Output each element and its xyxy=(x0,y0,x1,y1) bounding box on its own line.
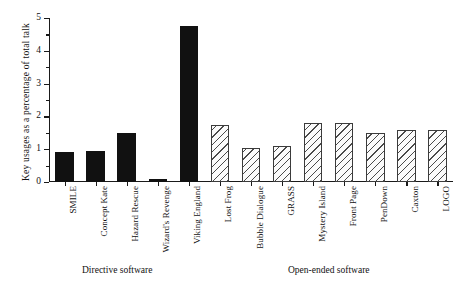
y-tick-major xyxy=(44,182,49,183)
y-tick-label: 3 xyxy=(36,79,41,89)
group-label-directive: Directive software xyxy=(82,265,152,275)
bar-chart: Key usages as a percentage of total talk… xyxy=(0,0,464,298)
x-axis-label: Wizard's Revenge xyxy=(161,186,171,253)
bar xyxy=(304,123,323,182)
bar xyxy=(180,26,199,182)
bar xyxy=(397,130,416,182)
x-axis-label: Viking England xyxy=(192,186,202,244)
bar xyxy=(117,133,136,182)
bar xyxy=(211,125,230,182)
y-tick-label: 1 xyxy=(36,144,41,154)
x-axis-label: SMILE xyxy=(68,186,78,214)
bar xyxy=(428,130,447,182)
plot-area: 012345 xyxy=(49,18,453,182)
y-tick-label: 0 xyxy=(36,177,41,187)
y-tick-label: 4 xyxy=(36,46,41,56)
x-axis-label: LOGO xyxy=(441,186,451,211)
bar xyxy=(366,133,385,182)
x-axis-label: PenDown xyxy=(379,186,389,222)
bar xyxy=(335,123,354,182)
x-axis-label: GRASS xyxy=(286,186,296,216)
x-axis-label: Lost Frog xyxy=(223,186,233,222)
x-axis-labels: SMILEConcept KateHazard RescueWizard's R… xyxy=(49,186,453,260)
x-axis-label: Front Page xyxy=(348,186,358,226)
x-axis-label: Caxton xyxy=(410,186,420,213)
bar xyxy=(273,146,292,182)
y-tick-label: 2 xyxy=(36,112,41,122)
bar-series xyxy=(49,18,453,182)
y-axis-title: Key usages as a percentage of total talk xyxy=(21,12,31,192)
group-label-open-ended: Open-ended software xyxy=(288,265,370,275)
x-axis-label: Concept Kate xyxy=(99,186,109,236)
y-tick-label: 5 xyxy=(36,13,41,23)
x-axis-label: Bubble Dialogue xyxy=(255,186,265,249)
bar xyxy=(86,151,105,182)
bar xyxy=(55,152,74,182)
bar xyxy=(242,148,261,182)
x-axis-label: Mystery Island xyxy=(317,186,327,242)
x-axis-label: Hazard Rescue xyxy=(130,186,140,242)
